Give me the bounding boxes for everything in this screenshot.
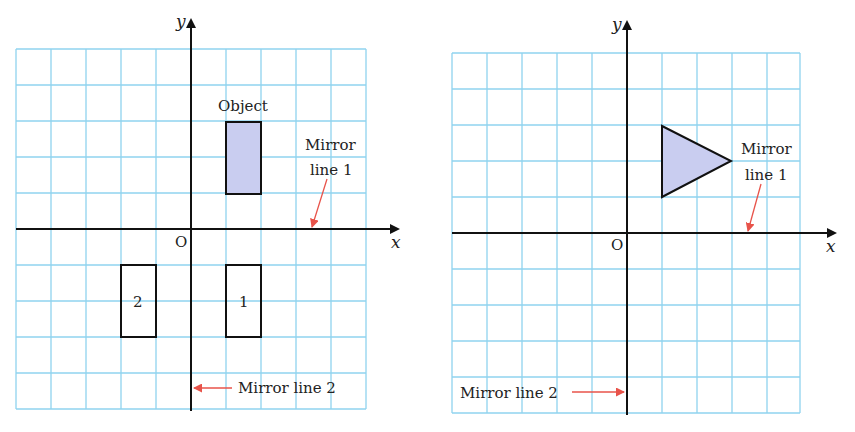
mirror-line-1-label: Mirror — [305, 136, 357, 154]
y-axis-label: y — [175, 11, 186, 31]
mirror-line-1-arrow — [748, 184, 761, 231]
diagram-rectangle-reflection: y x O Object 1 2 Mirror line 1 Mirror li… — [16, 11, 401, 411]
mirror-line-1-arrow — [312, 179, 327, 227]
object-rectangle — [226, 122, 261, 194]
mirror-line-1-label-2: line 1 — [745, 166, 787, 184]
y-axis-label: y — [611, 14, 622, 34]
x-axis-label: x — [826, 236, 836, 256]
diagram-triangle-reflection: y x O Mirror line 1 Mirror line 2 — [452, 14, 836, 415]
mirror-line-1-label: Mirror — [741, 140, 793, 158]
origin-label: O — [611, 236, 623, 254]
origin-label: O — [175, 233, 187, 251]
object-label: Object — [218, 97, 268, 115]
mirror-line-2-label: Mirror line 2 — [460, 384, 558, 402]
image-2-label: 2 — [133, 293, 143, 311]
x-axis-label: x — [391, 232, 401, 252]
mirror-line-2-label: Mirror line 2 — [238, 379, 336, 397]
mirror-line-1-label-2: line 1 — [310, 161, 352, 179]
image-1-label: 1 — [239, 293, 249, 311]
